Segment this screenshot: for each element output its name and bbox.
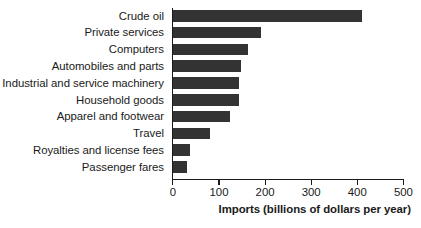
bar-row: Private services xyxy=(0,27,421,39)
bar-category-label: Automobiles and parts xyxy=(0,59,164,73)
plot-area: Crude oil Private services Computers Aut… xyxy=(0,0,421,180)
bar-row: Industrial and service machinery xyxy=(0,77,421,89)
bar-row: Automobiles and parts xyxy=(0,60,421,72)
x-axis-tick-label: 300 xyxy=(291,185,331,199)
bar-rect xyxy=(172,27,261,39)
bar-rect xyxy=(172,161,187,173)
bar-rect xyxy=(172,44,248,56)
bar-row: Crude oil xyxy=(0,10,421,22)
bar-row: Passenger fares xyxy=(0,161,421,173)
x-axis-tick-label: 400 xyxy=(337,185,377,199)
x-axis-tick xyxy=(218,180,219,185)
x-axis-tick xyxy=(357,180,358,185)
x-axis-tick xyxy=(403,180,404,185)
bar-row: Royalties and license fees xyxy=(0,144,421,156)
bar-category-label: Travel xyxy=(0,126,164,140)
bar-rect xyxy=(172,10,362,22)
x-axis-title: Imports (billions of dollars per year) xyxy=(0,202,421,216)
x-axis-tick-label: 200 xyxy=(245,185,285,199)
bar-category-label: Crude oil xyxy=(0,9,164,23)
x-axis-tick-label: 0 xyxy=(153,185,193,199)
bar-category-label: Apparel and footwear xyxy=(0,109,164,123)
bar-rect xyxy=(172,60,241,72)
bar-category-label: Passenger fares xyxy=(0,160,164,174)
x-axis-tick xyxy=(265,180,266,185)
bar-row: Household goods xyxy=(0,94,421,106)
bar-category-label: Computers xyxy=(0,42,164,56)
y-axis-line xyxy=(172,8,173,179)
bar-rect xyxy=(172,77,239,89)
bar-rect xyxy=(172,128,210,140)
x-axis-tick xyxy=(172,180,173,185)
bar-rect xyxy=(172,94,239,106)
bar-category-label: Industrial and service machinery xyxy=(0,76,164,90)
x-axis-tick-label: 500 xyxy=(383,185,421,199)
bar-row: Apparel and footwear xyxy=(0,111,421,123)
imports-bar-chart: Crude oil Private services Computers Aut… xyxy=(0,0,421,228)
bar-category-label: Household goods xyxy=(0,93,164,107)
bar-rect xyxy=(172,111,230,123)
x-axis-tick xyxy=(311,180,312,185)
bar-rect xyxy=(172,144,190,156)
bar-category-label: Private services xyxy=(0,25,164,39)
bar-row: Computers xyxy=(0,44,421,56)
x-axis-tick-label: 100 xyxy=(199,185,239,199)
x-axis-line xyxy=(172,179,404,180)
bar-category-label: Royalties and license fees xyxy=(0,143,164,157)
bar-row: Travel xyxy=(0,128,421,140)
